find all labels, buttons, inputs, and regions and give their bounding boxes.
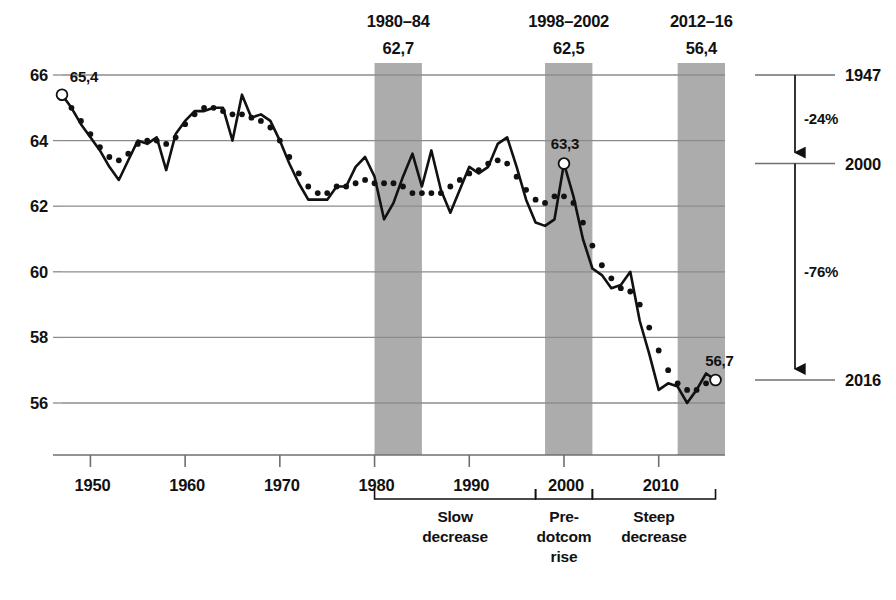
y-tick-label-66: 66 (30, 66, 48, 84)
x-tick-label-1980: 1980 (359, 476, 395, 494)
line-chart-canvas: 65,463,356,7 1980–8462,71998–200262,5201… (0, 0, 896, 600)
period-bracket-label: rise (551, 548, 578, 565)
trend-dot (315, 190, 321, 196)
period-bracket-3: Steepdecrease (592, 489, 715, 545)
period-bracket-layer: SlowdecreasePre-dotcomriseSteepdecrease (375, 489, 716, 565)
band-header-label-2: 1998–2002 (528, 12, 609, 30)
x-tick-label-layer: 1950196019701980199020002010 (74, 476, 678, 494)
trend-dot (410, 190, 416, 196)
chart-figure: 65,463,356,7 1980–8462,71998–200262,5201… (0, 0, 896, 600)
point-marker-open-circle (57, 89, 68, 100)
x-tick-label-1960: 1960 (169, 476, 205, 494)
trend-dot (561, 193, 567, 199)
y-tick-label-64: 64 (30, 132, 49, 150)
trend-dot (542, 200, 548, 206)
band-header-label-3: 2012–16 (670, 12, 733, 30)
band-header-layer: 1980–8462,71998–200262,52012–1656,4 (367, 12, 733, 57)
trend-dot (258, 118, 264, 124)
panel-year-label-1947: 1947 (845, 66, 881, 84)
trend-dot (391, 180, 397, 186)
trend-dot (627, 289, 633, 295)
trend-dot (296, 171, 302, 177)
trend-dot (646, 325, 652, 331)
trend-dot (447, 184, 453, 190)
trend-dot (428, 190, 434, 196)
trend-dot (599, 262, 605, 268)
y-tick-label-60: 60 (30, 263, 48, 281)
band-layer (375, 63, 725, 455)
highlight-band-2 (545, 63, 592, 455)
trend-dot (106, 154, 112, 160)
panel-change-label--24%: -24% (804, 110, 838, 127)
x-tick-label-2010: 2010 (643, 476, 679, 494)
trend-dot (353, 180, 359, 186)
highlight-band-1 (375, 63, 422, 455)
trend-dot (305, 184, 311, 190)
point-marker-open-circle (710, 375, 721, 386)
panel-year-label-2000: 2000 (845, 155, 881, 173)
point-value-label-63,3: 63,3 (551, 135, 579, 152)
trend-dot (163, 141, 169, 147)
trend-dot (230, 111, 236, 117)
y-tick-label-62: 62 (30, 197, 48, 215)
highlight-band-3 (678, 63, 725, 455)
trend-dot (665, 367, 671, 373)
panel-year-label-2016: 2016 (845, 371, 881, 389)
period-bracket-label: dotcom (537, 528, 592, 545)
period-bracket-label: Pre- (549, 508, 578, 525)
x-tick-label-2000: 2000 (548, 476, 584, 494)
point-value-label-56,7: 56,7 (705, 352, 733, 369)
change-panel: 194720002016-24%-76% (755, 66, 881, 389)
point-value-label-65,4: 65,4 (70, 68, 99, 85)
trend-dot (239, 111, 245, 117)
point-marker-open-circle (559, 158, 570, 169)
trend-dot (656, 348, 662, 354)
period-bracket-1: Slowdecrease (375, 489, 536, 545)
trend-dot (362, 177, 368, 183)
period-bracket-label: decrease (422, 528, 488, 545)
period-bracket-2: Pre-dotcomrise (536, 489, 593, 565)
trend-dot (533, 197, 539, 203)
y-tick-label-layer: 666462605856 (30, 66, 49, 412)
period-bracket-label: decrease (621, 528, 687, 545)
trend-dot (552, 193, 558, 199)
trend-dot (495, 157, 501, 163)
x-tick-label-1950: 1950 (74, 476, 110, 494)
panel-change-label--76%: -76% (804, 263, 838, 280)
axis-layer (53, 455, 725, 467)
y-tick-label-56: 56 (30, 394, 48, 412)
trend-dot (504, 161, 510, 167)
band-header-value-3: 56,4 (686, 39, 718, 57)
band-header-value-2: 62,5 (553, 39, 584, 57)
y-tick-label-58: 58 (30, 328, 48, 346)
trend-dot (590, 243, 596, 249)
band-header-label-1: 1980–84 (367, 12, 431, 30)
band-header-value-1: 62,7 (383, 39, 414, 57)
trend-dot (608, 275, 614, 281)
trend-dot (116, 157, 122, 163)
period-bracket-label: Steep (633, 508, 674, 525)
trend-dot (419, 190, 425, 196)
trend-dot (684, 387, 690, 393)
trend-dot (703, 380, 709, 386)
trend-dot (381, 180, 387, 186)
period-bracket-label: Slow (437, 508, 474, 525)
x-tick-label-1970: 1970 (264, 476, 300, 494)
x-tick-label-1990: 1990 (453, 476, 489, 494)
